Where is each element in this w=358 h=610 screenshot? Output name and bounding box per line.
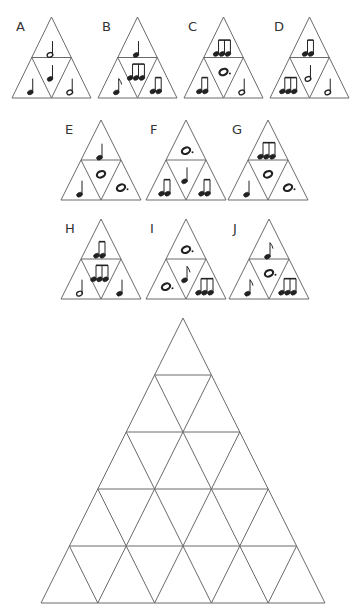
piece-label: B — [102, 19, 111, 34]
piece-label: E — [65, 122, 73, 137]
piece-label: D — [274, 19, 284, 34]
puzzle-piece-d[interactable]: D — [270, 17, 349, 98]
piece-label: H — [65, 221, 75, 236]
empty-triangle-board — [41, 318, 325, 603]
puzzle-piece-j[interactable]: J — [229, 219, 309, 299]
puzzle-piece-f[interactable]: F — [146, 120, 226, 200]
puzzle-piece-b[interactable]: B — [98, 17, 177, 98]
puzzle-piece-c[interactable]: C — [184, 17, 263, 98]
puzzle-piece-e[interactable]: E — [61, 120, 141, 200]
piece-label: I — [150, 221, 154, 236]
piece-label: G — [232, 122, 242, 137]
piece-label: A — [16, 19, 25, 34]
piece-label: F — [150, 122, 157, 137]
piece-label: J — [232, 221, 237, 236]
puzzle-piece-g[interactable]: G — [228, 120, 308, 200]
piece-label: C — [188, 19, 197, 34]
puzzle-canvas: ABCDEFGHIJ — [0, 0, 358, 610]
puzzle-piece-h[interactable]: H — [61, 219, 141, 299]
puzzle-pieces: ABCDEFGHIJ — [12, 17, 349, 299]
board-cell-upright[interactable] — [155, 318, 212, 375]
puzzle-piece-a[interactable]: A — [12, 17, 91, 98]
puzzle-piece-i[interactable]: I — [146, 219, 226, 299]
